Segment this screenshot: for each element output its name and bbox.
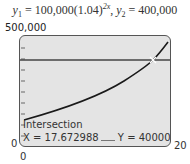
y1-curve <box>24 42 168 120</box>
chart-title: y1 = 100,000(1.04)2x, y2 = 400,000 <box>0 2 190 19</box>
intersection-heading: Intersection <box>23 119 83 130</box>
intersection-readout: X = 17.672988 Y = 400000 <box>23 132 171 143</box>
y1-expression: = 100,000(1.04) <box>22 3 103 17</box>
plot-area <box>20 36 171 147</box>
calculator-screen: Intersection X = 17.672988 Y = 400000 <box>19 35 171 147</box>
intersection-y-value: Y = 400000 <box>118 132 171 143</box>
y-axis-max-label: 500,000 <box>5 22 46 33</box>
x-axis-max-label: 20 <box>174 140 187 151</box>
y2-expression: = 400,000 <box>126 3 178 17</box>
y-axis-min-label: 0 <box>11 138 17 149</box>
intersection-x-value: X = 17.672988 <box>23 132 99 143</box>
x-axis-min-label: 0 <box>20 151 26 162</box>
x-cursor-underline <box>101 132 115 141</box>
